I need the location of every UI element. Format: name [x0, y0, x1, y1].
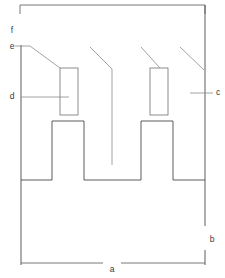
right-detail-rectangle [150, 68, 168, 115]
leader-line-right-tooth [141, 47, 160, 68]
left-detail-rectangle [60, 68, 78, 115]
leader-line-e-diagonal [30, 46, 60, 68]
top-dimension-group [20, 5, 205, 14]
leader-line-right-diagonal [180, 47, 204, 70]
leader-lines-group [15, 46, 213, 165]
label-b: b [210, 234, 215, 244]
label-e: e [10, 41, 15, 51]
label-f: f [11, 25, 14, 35]
label-a: a [110, 264, 115, 274]
label-c: c [216, 87, 221, 97]
leader-line-center [90, 47, 112, 165]
label-d: d [10, 91, 15, 101]
cross-section-figure: f e d c b a [0, 0, 225, 278]
profile-outline [21, 121, 205, 180]
diagram-root: f e d c b a [0, 0, 225, 278]
